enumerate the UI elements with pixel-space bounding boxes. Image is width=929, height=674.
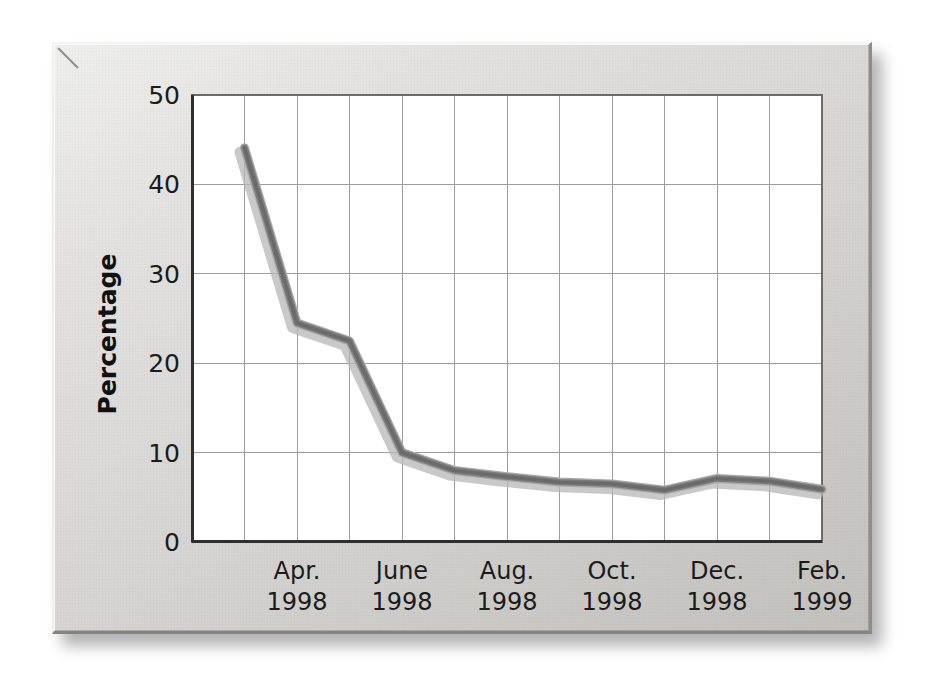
y-tick-label: 20	[148, 349, 180, 378]
x-tick-label-year: 1998	[371, 588, 432, 616]
x-tick-label-month: June	[374, 557, 428, 585]
x-tick-label-year: 1998	[266, 588, 327, 616]
y-tick-label: 30	[148, 260, 180, 289]
y-axis-title: Percentage	[93, 254, 122, 415]
x-tick-label-year: 1998	[476, 588, 537, 616]
y-axis-tick-labels: 50 40 30 20 10 0	[148, 81, 180, 557]
x-tick-label-month: Aug.	[480, 557, 535, 585]
line-chart: 50 40 30 20 10 0 Percentage Apr. 1998 Ju…	[54, 44, 874, 636]
y-tick-label: 50	[148, 81, 180, 110]
x-axis-tick-labels: Apr. 1998 June 1998 Aug. 1998 Oct. 1998 …	[266, 557, 852, 616]
x-tick-label-month: Apr.	[274, 557, 321, 585]
x-tick-label-month: Oct.	[587, 557, 636, 585]
x-tick-label-month: Feb.	[797, 557, 847, 585]
figure-panel: 50 40 30 20 10 0 Percentage Apr. 1998 Ju…	[52, 42, 872, 634]
x-tick-label-year: 1999	[791, 588, 852, 616]
y-tick-label: 0	[164, 528, 180, 557]
x-tick-label-month: Dec.	[690, 557, 744, 585]
x-tick-label-year: 1998	[581, 588, 642, 616]
y-tick-label: 40	[148, 170, 180, 199]
y-tick-label: 10	[148, 439, 180, 468]
x-tick-label-year: 1998	[686, 588, 747, 616]
